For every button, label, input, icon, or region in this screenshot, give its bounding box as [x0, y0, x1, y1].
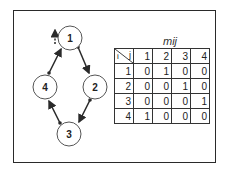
- node-1: 1: [58, 26, 82, 50]
- matrix-cell: 1: [153, 64, 172, 79]
- matrix-cell: 0: [153, 94, 172, 109]
- col-header: 1: [134, 49, 153, 64]
- matrix-cell: 1: [172, 79, 191, 94]
- matrix-cell: 0: [134, 79, 153, 94]
- col-header: 4: [191, 49, 210, 64]
- row-header: 1: [115, 64, 134, 79]
- col-header: 3: [172, 49, 191, 64]
- row-axis-label: i: [117, 50, 119, 63]
- matrix-cell: 1: [134, 109, 153, 124]
- matrix-cell: 0: [172, 64, 191, 79]
- matrix-title: mij: [150, 35, 190, 47]
- row-header: 3: [115, 94, 134, 109]
- col-header: 2: [153, 49, 172, 64]
- node-2: 2: [83, 75, 107, 99]
- matrix-cell: 0: [134, 94, 153, 109]
- matrix-cell: 0: [153, 109, 172, 124]
- svg-text:4: 4: [42, 82, 48, 93]
- edge-4-1: [49, 49, 61, 73]
- col-axis-label: j: [129, 49, 131, 62]
- matrix-cell: 1: [191, 94, 210, 109]
- svg-text:3: 3: [66, 129, 72, 140]
- node-4: 4: [33, 75, 57, 99]
- svg-text:1: 1: [67, 33, 73, 44]
- node-3: 3: [57, 122, 81, 146]
- matrix-cell: 0: [191, 109, 210, 124]
- matrix-cell: 0: [153, 79, 172, 94]
- matrix-row: 1 0 1 0 0: [115, 64, 210, 79]
- matrix-cell: 0: [191, 64, 210, 79]
- row-header: 4: [115, 109, 134, 124]
- row-header: 2: [115, 79, 134, 94]
- edge-1-2: [78, 47, 89, 73]
- matrix-corner-cell: j i: [115, 49, 134, 64]
- matrix-cell: 0: [134, 64, 153, 79]
- adjacency-matrix: j i 1 2 3 4 1 0 1 0 0 2 0 0 1 0 3 0 0 0 …: [114, 48, 210, 124]
- matrix-cell: 0: [191, 79, 210, 94]
- matrix-row: 2 0 0 1 0: [115, 79, 210, 94]
- matrix-header-row: j i 1 2 3 4: [115, 49, 210, 64]
- matrix-row: 3 0 0 0 1: [115, 94, 210, 109]
- matrix-row: 4 1 0 0 0: [115, 109, 210, 124]
- edge-2-3: [79, 100, 90, 122]
- edge-3-4: [49, 101, 60, 123]
- svg-text:2: 2: [92, 82, 98, 93]
- matrix-cell: 0: [172, 94, 191, 109]
- matrix-cell: 0: [172, 109, 191, 124]
